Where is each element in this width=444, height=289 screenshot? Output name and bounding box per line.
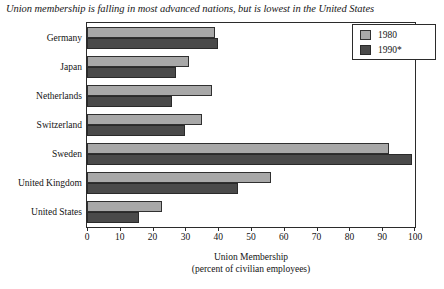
bar-group: United States bbox=[87, 198, 415, 227]
x-axis-tick bbox=[185, 227, 186, 231]
union-membership-bar-chart: Union membership is falling in most adva… bbox=[0, 0, 444, 289]
x-axis-tick-label-70: 70 bbox=[312, 232, 322, 243]
x-axis-tick-label-50: 50 bbox=[246, 232, 256, 243]
x-axis-tick-label-20: 20 bbox=[148, 232, 158, 243]
x-axis-tick-label-10: 10 bbox=[115, 232, 125, 243]
bar-united-states-1980 bbox=[87, 201, 162, 212]
y-axis-label-japan: Japan bbox=[60, 62, 82, 72]
x-axis-tick-label-40: 40 bbox=[213, 232, 223, 243]
x-axis-title-main: Union Membership bbox=[86, 252, 416, 264]
bar-germany-1990 bbox=[87, 38, 218, 49]
bar-netherlands-1980 bbox=[87, 85, 212, 96]
chart-legend: 1980 1990* bbox=[352, 24, 436, 60]
bar-group: United Kingdom bbox=[87, 169, 415, 198]
x-axis-tick bbox=[317, 227, 318, 231]
bar-group: Sweden bbox=[87, 140, 415, 169]
legend-swatch-1990-icon bbox=[360, 45, 371, 55]
x-axis-tick-label-80: 80 bbox=[345, 232, 355, 243]
x-axis-tick-label-60: 60 bbox=[279, 232, 289, 243]
x-axis-tick-label-100: 100 bbox=[408, 232, 422, 243]
y-axis-label-united-kingdom: United Kingdom bbox=[18, 178, 82, 188]
x-axis-tick bbox=[382, 227, 383, 231]
legend-label-1980: 1980 bbox=[378, 30, 397, 40]
y-axis-label-sweden: Sweden bbox=[52, 149, 82, 159]
legend-swatch-1980-icon bbox=[360, 30, 371, 40]
bar-switzerland-1990 bbox=[87, 125, 185, 136]
bar-group: Switzerland bbox=[87, 110, 415, 139]
bar-netherlands-1990 bbox=[87, 96, 172, 107]
x-axis-tick bbox=[251, 227, 252, 231]
y-axis-label-united-states: United States bbox=[31, 207, 82, 217]
x-axis-tick bbox=[284, 227, 285, 231]
y-axis-label-netherlands: Netherlands bbox=[36, 91, 82, 101]
x-axis-tick-label-90: 90 bbox=[377, 232, 387, 243]
bar-sweden-1990 bbox=[87, 154, 412, 165]
x-axis-tick bbox=[153, 227, 154, 231]
x-axis-tick bbox=[414, 227, 415, 231]
x-axis-tick bbox=[218, 227, 219, 231]
x-axis-tick-label-0: 0 bbox=[85, 232, 90, 243]
x-axis-tick bbox=[87, 227, 88, 231]
bar-germany-1980 bbox=[87, 27, 215, 38]
bar-united-kingdom-1980 bbox=[87, 172, 271, 183]
y-axis-label-germany: Germany bbox=[47, 33, 82, 43]
x-axis-title-sub: (percent of civilian employees) bbox=[86, 264, 416, 276]
y-axis-label-switzerland: Switzerland bbox=[37, 120, 82, 130]
bar-united-states-1990 bbox=[87, 212, 139, 223]
x-axis-tick bbox=[120, 227, 121, 231]
bar-japan-1990 bbox=[87, 67, 176, 78]
chart-title: Union membership is falling in most adva… bbox=[6, 2, 438, 15]
bar-japan-1980 bbox=[87, 56, 189, 67]
x-axis-tick-label-30: 30 bbox=[181, 232, 191, 243]
legend-label-1990: 1990* bbox=[378, 45, 402, 55]
x-axis-title: Union Membership (percent of civilian em… bbox=[86, 252, 416, 275]
bar-switzerland-1980 bbox=[87, 114, 202, 125]
legend-entry-1980: 1980 bbox=[360, 28, 435, 42]
bar-united-kingdom-1990 bbox=[87, 183, 238, 194]
bar-sweden-1980 bbox=[87, 143, 389, 154]
x-axis-tick bbox=[349, 227, 350, 231]
bar-group: Netherlands bbox=[87, 81, 415, 110]
legend-entry-1990: 1990* bbox=[360, 43, 435, 57]
